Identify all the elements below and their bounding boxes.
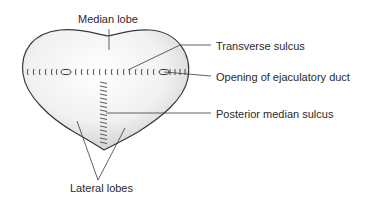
prostate-outline bbox=[23, 30, 189, 150]
prostate-diagram bbox=[0, 0, 369, 199]
label-transverse-sulcus: Transverse sulcus bbox=[216, 40, 305, 52]
label-median-lobe: Median lobe bbox=[78, 13, 138, 25]
label-opening-ejaculatory-duct: Opening of ejaculatory duct bbox=[216, 71, 350, 83]
label-posterior-median-sulcus: Posterior median sulcus bbox=[216, 108, 333, 120]
label-lateral-lobes: Lateral lobes bbox=[70, 182, 133, 194]
